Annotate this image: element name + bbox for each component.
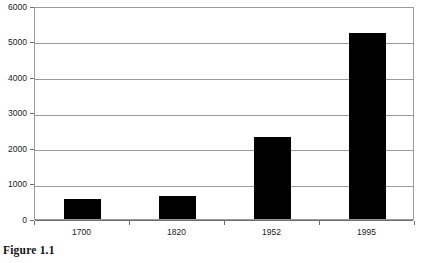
y-tick-label: 1000	[8, 180, 30, 189]
x-tick-label-1952: 1952	[224, 228, 319, 237]
x-tick-label-1700: 1700	[34, 228, 129, 237]
y-tick-mark	[30, 184, 34, 185]
y-tick-label: 5000	[8, 38, 30, 47]
x-tick-mark	[319, 221, 320, 225]
figure-container: 0100020003000400050006000 17001820195219…	[0, 0, 421, 263]
y-tick-mark	[30, 7, 34, 8]
x-tick-mark	[224, 221, 225, 225]
x-tick-label-1820: 1820	[129, 228, 224, 237]
y-tick-mark	[30, 149, 34, 150]
bar-1995	[349, 33, 386, 219]
y-tick-label: 6000	[8, 3, 30, 12]
x-tick-mark	[414, 221, 415, 225]
y-tick-label: 2000	[8, 145, 30, 154]
figure-caption: Figure 1.1	[3, 244, 55, 256]
chart-plot-area	[34, 7, 414, 220]
bar-1952	[254, 137, 291, 219]
x-tick-label-1995: 1995	[319, 228, 414, 237]
x-axis: 1700182019521995	[0, 228, 421, 242]
y-tick-label: 4000	[8, 74, 30, 83]
bar-1820	[159, 196, 196, 219]
x-tick-mark	[34, 221, 35, 225]
x-tick-mark	[129, 221, 130, 225]
bar-1700	[64, 199, 101, 219]
y-tick-mark	[30, 42, 34, 43]
y-axis: 0100020003000400050006000	[0, 0, 34, 263]
y-tick-mark	[30, 113, 34, 114]
y-tick-mark	[30, 78, 34, 79]
y-tick-label: 0	[22, 216, 30, 225]
y-tick-label: 3000	[8, 109, 30, 118]
